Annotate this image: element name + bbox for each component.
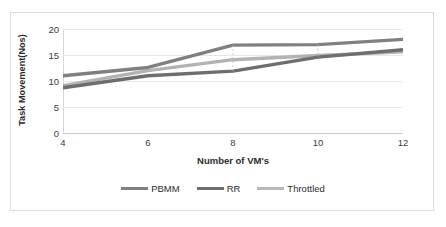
series-lines bbox=[63, 29, 403, 133]
legend-label-throttled: Throttled bbox=[287, 183, 325, 194]
legend-swatch-pbmm bbox=[121, 187, 148, 190]
legend-item-throttled[interactable]: Throttled bbox=[257, 183, 325, 194]
series-rr-group bbox=[63, 50, 403, 88]
y-tick-10: 10 bbox=[37, 76, 59, 87]
legend-label-pbmm: PBMM bbox=[151, 183, 180, 194]
series-line-rr bbox=[63, 50, 403, 88]
chart-figure: Task Movement(Nos) 20 15 10 5 0 4 bbox=[10, 12, 434, 211]
chart-legend: PBMM RR Throttled bbox=[11, 183, 435, 194]
x-tick-8: 8 bbox=[213, 137, 253, 148]
x-axis-tick-labels: 4 6 8 10 12 bbox=[63, 137, 403, 153]
x-tick-4: 4 bbox=[43, 137, 83, 148]
plot-area bbox=[63, 29, 403, 133]
y-axis-title-label: Task Movement(Nos) bbox=[17, 34, 27, 126]
x-tick-10: 10 bbox=[298, 137, 338, 148]
y-tick-15: 15 bbox=[37, 50, 59, 61]
legend-swatch-throttled bbox=[257, 187, 284, 190]
x-tick-6: 6 bbox=[128, 137, 168, 148]
legend-label-rr: RR bbox=[227, 183, 241, 194]
y-tick-5: 5 bbox=[37, 102, 59, 113]
x-tick-12: 12 bbox=[383, 137, 423, 148]
x-axis-title: Number of VM's bbox=[63, 155, 403, 166]
legend-item-pbmm[interactable]: PBMM bbox=[121, 183, 180, 194]
y-tick-20: 20 bbox=[37, 24, 59, 35]
legend-item-rr[interactable]: RR bbox=[197, 183, 241, 194]
x-axis-line bbox=[63, 133, 403, 134]
legend-swatch-rr bbox=[197, 187, 224, 190]
